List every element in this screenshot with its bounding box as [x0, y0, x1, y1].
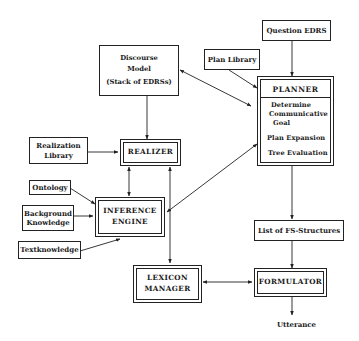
ontology-label: Ontology	[32, 183, 67, 192]
realization-library-line2: Library	[44, 151, 72, 160]
inference-engine-line2: ENGINE	[112, 217, 148, 228]
lexicon-manager-box: LEXICON MANAGER	[133, 265, 202, 303]
lexicon-manager-line2: MANAGER	[144, 284, 190, 295]
fs-structures-list-label: List of FS-Structures	[258, 226, 340, 235]
inference-engine-box: INFERENCE ENGINE	[95, 197, 165, 237]
background-knowledge-line2: Knowledge	[26, 218, 69, 227]
plan-library-box: Plan Library	[204, 49, 260, 70]
planner-item-goal: Goal	[267, 119, 290, 128]
realization-library-line1: Realization	[36, 141, 80, 150]
formulator-label: FORMULATOR	[259, 277, 322, 288]
edge-planlibrary-to-planner	[229, 70, 257, 88]
edge-ontology-to-inference	[70, 188, 95, 204]
fs-structures-list-box: List of FS-Structures	[254, 220, 344, 241]
realizer-box: REALIZER	[120, 139, 181, 166]
edge-planner-discourse	[180, 70, 251, 106]
planner-item-tree-evaluation: Tree Evaluation	[267, 149, 328, 158]
discourse-model-line3: (Stack of EDRSs)	[106, 77, 171, 88]
planner-title: PLANNER	[261, 80, 330, 98]
lexicon-manager-line1: LEXICON	[147, 273, 188, 284]
background-knowledge-box: Background Knowledge	[22, 205, 74, 231]
realizer-label: REALIZER	[128, 147, 173, 158]
planner-item-plan-expansion: Plan Expansion	[267, 134, 325, 143]
inference-engine-line1: INFERENCE	[103, 206, 156, 217]
utterance-label: Utterance	[277, 320, 316, 329]
question-edrs-box: Question EDRS	[262, 20, 331, 41]
textknowledge-box: Textknowledge	[18, 241, 81, 259]
ontology-box: Ontology	[29, 180, 71, 195]
discourse-model-line2: Model	[127, 64, 151, 75]
discourse-model-line1: Discourse	[120, 53, 158, 64]
planner-box: PLANNER Determine Communicative Goal Pla…	[257, 76, 334, 166]
textknowledge-label: Textknowledge	[20, 245, 78, 254]
realization-library-box: Realization Library	[29, 137, 88, 164]
plan-library-label: Plan Library	[208, 55, 256, 64]
question-edrs-label: Question EDRS	[267, 26, 327, 35]
background-knowledge-line1: Background	[24, 209, 72, 218]
edge-textknowledge-to-inference	[80, 239, 120, 251]
formulator-box: FORMULATOR	[254, 268, 327, 297]
planner-item-communicative: Communicative	[267, 110, 328, 119]
planner-item-determine: Determine	[267, 101, 311, 110]
discourse-model-box: Discourse Model (Stack of EDRSs)	[99, 45, 179, 96]
